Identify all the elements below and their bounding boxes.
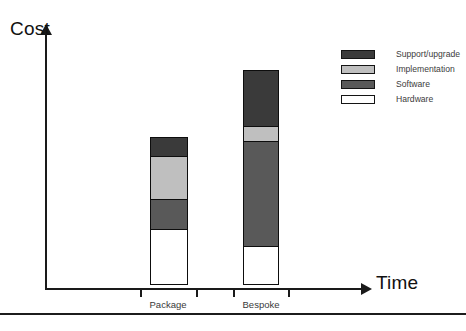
legend-label: Hardware bbox=[396, 95, 433, 104]
x-axis-tick bbox=[196, 288, 198, 297]
x-axis-line bbox=[45, 288, 363, 290]
chart-figure: Cost Time Package Bespoke Support/upgrad… bbox=[0, 0, 466, 331]
bar-segment-support-upgrade[interactable] bbox=[243, 70, 279, 128]
legend-swatch-icon bbox=[341, 65, 375, 74]
legend-label: Implementation bbox=[396, 65, 455, 74]
legend-item-implementation[interactable]: Implementation bbox=[341, 62, 463, 77]
legend-label: Software bbox=[396, 80, 430, 89]
footer-clipped-text bbox=[18, 322, 258, 331]
bar-segment-software[interactable] bbox=[243, 141, 279, 248]
legend-label: Support/upgrade bbox=[396, 50, 460, 59]
x-axis-tick bbox=[140, 288, 142, 297]
legend-item-hardware[interactable]: Hardware bbox=[341, 92, 463, 107]
bar-bespoke[interactable] bbox=[243, 70, 279, 290]
y-axis-line bbox=[45, 34, 47, 290]
x-axis-label-bespoke: Bespoke bbox=[243, 299, 280, 310]
y-axis-title: Cost bbox=[10, 18, 50, 40]
bar-segment-hardware[interactable] bbox=[150, 229, 188, 285]
legend-swatch-icon bbox=[341, 50, 375, 59]
legend-item-software[interactable]: Software bbox=[341, 77, 463, 92]
bar-package[interactable] bbox=[150, 137, 188, 290]
footer-divider bbox=[0, 313, 466, 315]
bar-segment-software[interactable] bbox=[150, 199, 188, 231]
x-axis-arrow-icon bbox=[361, 283, 372, 295]
x-axis-tick bbox=[233, 288, 235, 297]
x-axis-label-package: Package bbox=[150, 299, 187, 310]
legend-item-support-upgrade[interactable]: Support/upgrade bbox=[341, 47, 463, 62]
chart-legend: Support/upgrade Implementation Software … bbox=[341, 47, 463, 107]
legend-swatch-icon bbox=[341, 95, 375, 104]
bar-segment-support-upgrade[interactable] bbox=[150, 137, 188, 158]
bar-segment-hardware[interactable] bbox=[243, 246, 279, 285]
x-axis-title: Time bbox=[376, 272, 418, 294]
legend-swatch-icon bbox=[341, 80, 375, 89]
bar-segment-implementation[interactable] bbox=[150, 156, 188, 200]
x-axis-tick bbox=[288, 288, 290, 297]
